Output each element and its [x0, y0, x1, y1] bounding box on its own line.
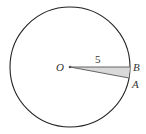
label-o: O — [56, 61, 64, 73]
label-a: A — [131, 78, 139, 90]
diagram: O 5 B A — [0, 0, 146, 134]
label-radius: 5 — [95, 53, 101, 65]
label-b: B — [133, 61, 140, 73]
circle-diagram: O 5 B A — [0, 0, 146, 134]
center-point — [69, 66, 72, 69]
